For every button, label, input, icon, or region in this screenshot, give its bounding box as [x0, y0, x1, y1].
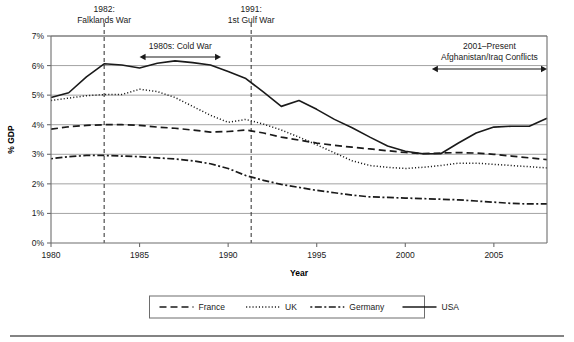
annotation-title-afghanistan-iraq: 2001–Present	[463, 41, 517, 51]
x-tick-label-1990: 1990	[219, 250, 238, 260]
y-axis-title: % GDP	[6, 125, 16, 154]
legend-label-germany: Germany	[349, 302, 385, 312]
x-tick-label-2005: 2005	[484, 250, 503, 260]
data-series-group	[51, 61, 547, 204]
x-tick-label-1985: 1985	[130, 250, 149, 260]
x-tick-label-1980: 1980	[42, 250, 61, 260]
annotation-title-falklands: 1982:	[94, 4, 115, 14]
annotation-subtitle-falklands: Falklands War	[77, 15, 131, 25]
series-line-usa	[51, 61, 547, 154]
y-axis-ticks-group: 0%1%2%3%4%5%6%7%	[32, 31, 51, 248]
annotation-arrow-cold-war	[140, 54, 221, 60]
y-tick-label-7%: 7%	[32, 31, 45, 41]
chart-legend: FranceUKGermanyUSA	[150, 296, 460, 318]
y-tick-label-1%: 1%	[32, 208, 45, 218]
x-axis-title: Year	[290, 268, 309, 278]
x-axis-ticks-group: 198019851990199520002005	[42, 243, 504, 260]
annotation-subtitle-gulf-war: 1st Gulf War	[228, 15, 275, 25]
plot-frame-group	[51, 36, 547, 243]
chart-canvas: 198019851990199520002005 0%1%2%3%4%5%6%7…	[0, 0, 574, 342]
legend-label-usa: USA	[442, 302, 460, 312]
x-tick-label-2000: 2000	[396, 250, 415, 260]
y-tick-label-3%: 3%	[32, 149, 45, 159]
annotation-label-cold-war: 1980s: Cold War	[149, 41, 212, 51]
legend-label-france: France	[199, 302, 226, 312]
legend-label-uk: UK	[285, 302, 297, 312]
gridlines-group	[51, 36, 547, 213]
event-marker-lines-group	[104, 23, 251, 243]
y-tick-label-5%: 5%	[32, 90, 45, 100]
y-tick-label-0%: 0%	[32, 238, 45, 248]
annotation-title-gulf-war: 1991:	[241, 4, 262, 14]
annotation-arrow-afghanistan-iraq	[432, 66, 547, 72]
gdp-defense-spending-chart: 198019851990199520002005 0%1%2%3%4%5%6%7…	[0, 0, 574, 342]
y-tick-label-6%: 6%	[32, 61, 45, 71]
y-tick-label-4%: 4%	[32, 120, 45, 130]
y-tick-label-2%: 2%	[32, 179, 45, 189]
annotations-group: 1982:Falklands War1991:1st Gulf War1980s…	[77, 4, 547, 72]
annotation-subtitle-afghanistan-iraq: Afghanistan/Iraq Conflicts	[441, 52, 538, 62]
x-tick-label-1995: 1995	[307, 250, 326, 260]
